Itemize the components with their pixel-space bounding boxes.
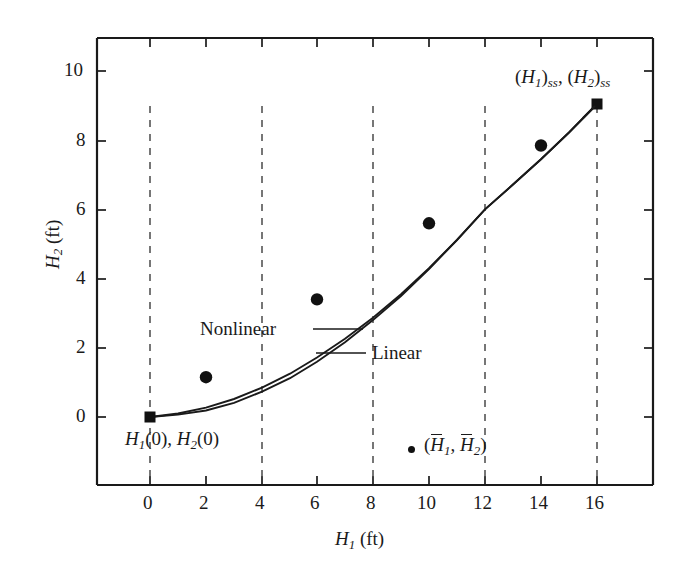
y-axis-title: H2 (ft) [42, 184, 67, 304]
x-axis-title-symbol: H [335, 528, 349, 549]
overbar-h1 [431, 434, 442, 435]
data-point [311, 293, 323, 305]
y-tick-label: 4 [76, 267, 86, 289]
x-axis-title-unit: (ft) [355, 528, 384, 549]
overbar-h2 [461, 434, 472, 435]
x-tick-label: 16 [585, 492, 604, 514]
data-point [200, 371, 212, 383]
initial-zero-1: (0), [145, 428, 177, 449]
steady-state-h1-ss: ss [548, 75, 558, 90]
initial-h1: H [125, 428, 139, 449]
steady-state-h2-sub: 2 [587, 75, 593, 90]
steady-state-h1: H [521, 66, 535, 87]
steady-state-h2: H [574, 66, 588, 87]
bar-legend-annotation: (H1, H2) [424, 434, 487, 459]
initial-h2: H [177, 428, 191, 449]
nonlinear-curve-label: Nonlinear [200, 318, 276, 340]
bar-legend-h1: H [430, 434, 444, 455]
legend-marker-dot [408, 446, 415, 453]
y-axis-title-unit: (ft) [42, 220, 63, 249]
initial-condition-annotation: H1(0), H2(0) [125, 428, 219, 453]
y-tick-marks [97, 71, 653, 417]
x-tick-label: 6 [310, 492, 320, 514]
y-tick-label: 0 [76, 405, 86, 427]
y-axis-title-subscript: 2 [50, 249, 65, 255]
vertical-gridlines [150, 106, 597, 478]
y-axis-title-symbol: H [42, 255, 63, 269]
data-point [423, 217, 435, 229]
bar-legend-close: ) [480, 434, 486, 455]
steady-state-h2-ss: ss [600, 75, 610, 90]
plot-frame [97, 38, 653, 485]
x-tick-label: 2 [199, 492, 209, 514]
steady-state-leader-line [583, 106, 595, 118]
steady-state-h1-sub: 1 [535, 75, 541, 90]
x-tick-label: 12 [473, 492, 492, 514]
x-tick-label: 4 [255, 492, 265, 514]
data-point [535, 139, 547, 151]
x-tick-label: 0 [143, 492, 153, 514]
initial-condition-marker [145, 412, 156, 423]
bar-legend-h2: H [460, 434, 474, 455]
y-tick-label: 2 [76, 336, 86, 358]
y-tick-label: 8 [76, 129, 86, 151]
x-tick-label: 8 [366, 492, 376, 514]
y-tick-label: 6 [76, 198, 86, 220]
x-tick-label: 14 [529, 492, 548, 514]
x-axis-title: H1 (ft) [335, 528, 384, 553]
y-tick-label: 10 [64, 59, 83, 81]
steady-state-annotation: (H1)ss, (H2)ss [515, 66, 610, 91]
initial-zero-2: (0) [197, 428, 219, 449]
x-tick-label: 10 [417, 492, 436, 514]
steady-state-comma: , [558, 66, 568, 87]
bar-legend-comma: , [451, 434, 461, 455]
linear-curve-label: Linear [372, 342, 422, 364]
